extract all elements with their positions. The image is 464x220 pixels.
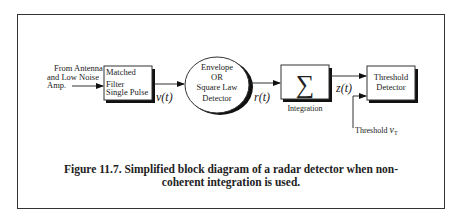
threshold-detector-block: Threshold Detector bbox=[367, 66, 418, 103]
threshold-label: Threshold vT bbox=[355, 124, 398, 136]
matched-filter-block: Matched Filter Single Pulse bbox=[104, 66, 155, 103]
threshold-arrow bbox=[353, 96, 366, 128]
integration-block: ∑ Integration bbox=[281, 65, 332, 113]
sigma-icon: ∑ bbox=[296, 70, 315, 99]
svg-text:Matched: Matched bbox=[106, 67, 136, 77]
svg-text:Single Pulse: Single Pulse bbox=[106, 87, 148, 97]
svg-text:Square Law: Square Law bbox=[197, 82, 239, 92]
svg-text:Detector: Detector bbox=[376, 82, 405, 92]
svg-text:OR: OR bbox=[211, 72, 223, 82]
figure-caption: Figure 11.7. Simplified block diagram of… bbox=[17, 163, 445, 189]
svg-text:Detector: Detector bbox=[202, 93, 231, 103]
svg-text:Amp.: Amp. bbox=[47, 80, 66, 90]
integration-label: Integration bbox=[287, 104, 322, 113]
envelope-detector-block: Envelope OR Square Law Detector bbox=[185, 57, 253, 115]
signal-z-label: z(t) bbox=[335, 81, 352, 95]
signal-v-label: v(t) bbox=[156, 90, 173, 104]
caption-line-1: Figure 11.7. Simplified block diagram of… bbox=[17, 163, 445, 176]
figure: From Antenna and Low Noise Amp. Matched … bbox=[0, 0, 464, 220]
caption-line-2: coherent integration is used. bbox=[17, 176, 445, 189]
svg-text:Threshold: Threshold bbox=[374, 72, 409, 82]
svg-text:Envelope: Envelope bbox=[201, 62, 233, 72]
signal-r-label: r(t) bbox=[254, 90, 270, 104]
